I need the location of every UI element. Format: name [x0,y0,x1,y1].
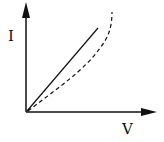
x-axis-label: V [121,120,134,138]
x-axis [26,108,157,116]
iv-diagram: I V [0,0,164,142]
x-axis-arrow-icon [141,108,157,116]
y-axis-label: I [8,27,14,45]
linear-curve [27,28,98,111]
y-axis [22,2,30,112]
y-axis-arrow-icon [22,2,30,18]
